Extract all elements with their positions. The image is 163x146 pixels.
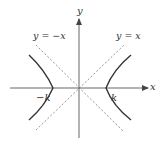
vertex-label-neg-k: −k xyxy=(36,93,50,103)
hyperbola-left-branch xyxy=(29,55,53,120)
asymptote-label-neg-x: y = −x xyxy=(33,31,66,41)
x-axis-label: x xyxy=(150,82,156,92)
hyperbola-right-branch xyxy=(106,55,131,120)
asymptote-y-equals-x xyxy=(36,45,124,130)
vertex-label-k: k xyxy=(111,93,117,103)
asymptote-y-equals-neg-x xyxy=(36,45,124,132)
asymptote-label-pos-x: y = x xyxy=(116,31,141,41)
y-axis-label: y xyxy=(77,6,83,16)
plot-canvas xyxy=(0,0,163,146)
hyperbola-figure: y x y = −x y = x −k k xyxy=(0,0,163,146)
